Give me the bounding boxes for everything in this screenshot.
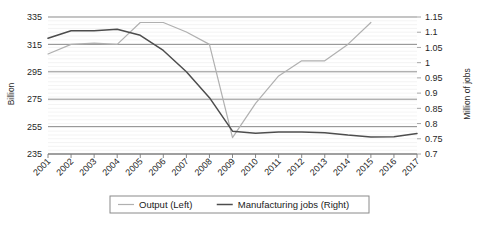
- right-tick-label: 0.7: [425, 149, 438, 159]
- right-tick-label: 0.75: [425, 134, 443, 144]
- legend-label: Output (Left): [139, 199, 192, 210]
- right-tick-label: 0.9: [425, 88, 438, 98]
- right-axis-title: Million of jobs: [462, 68, 472, 120]
- left-axis-title: Billion: [6, 82, 16, 105]
- chart-legend: Output (Left)Manufacturing jobs (Right): [110, 196, 369, 213]
- chart-background: [0, 0, 479, 229]
- right-tick-label: 1.1: [425, 27, 438, 37]
- left-tick-label: 335: [27, 12, 42, 22]
- right-tick-label: 0.8: [425, 119, 438, 129]
- legend-label: Manufacturing jobs (Right): [238, 199, 349, 210]
- left-tick-label: 235: [27, 149, 42, 159]
- left-tick-label: 255: [27, 122, 42, 132]
- left-tick-label: 315: [27, 40, 42, 50]
- right-tick-label: 0.95: [425, 73, 443, 83]
- dual-axis-line-chart: 235255275295315335 Billion 0.70.750.80.8…: [0, 0, 479, 229]
- right-tick-label: 1.05: [425, 43, 443, 53]
- right-tick-label: 1.15: [425, 12, 443, 22]
- right-tick-label: 1: [425, 58, 430, 68]
- left-tick-label: 295: [27, 67, 42, 77]
- right-tick-label: 0.85: [425, 104, 443, 114]
- left-tick-label: 275: [27, 94, 42, 104]
- chart-container: 235255275295315335 Billion 0.70.750.80.8…: [0, 0, 479, 229]
